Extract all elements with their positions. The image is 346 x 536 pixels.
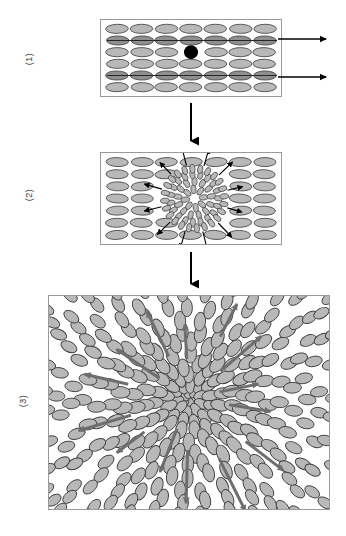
connector-2-3 xyxy=(183,252,201,294)
molecule-ellipse xyxy=(253,181,275,191)
molecule-ellipse xyxy=(48,315,61,331)
molecule-ellipse xyxy=(156,230,178,239)
molecule-ellipse xyxy=(220,193,229,199)
molecule-ellipse xyxy=(106,48,129,57)
molecule-ellipse xyxy=(48,301,56,317)
molecule-ellipse xyxy=(229,59,252,68)
molecule-ellipse xyxy=(328,471,330,487)
flow-arrow xyxy=(185,325,187,359)
molecule-ellipse xyxy=(228,230,250,240)
molecule-ellipse xyxy=(57,439,76,454)
molecule-ellipse xyxy=(131,181,154,191)
molecule-ellipse xyxy=(155,48,178,57)
molecule-ellipse xyxy=(160,198,169,204)
molecule-ellipse xyxy=(320,295,330,307)
molecule-ellipse xyxy=(229,24,252,33)
molecule-ellipse xyxy=(88,312,108,331)
stage-3-canvas xyxy=(49,296,329,509)
molecule-ellipse xyxy=(205,83,228,92)
molecule-ellipse xyxy=(253,206,275,216)
molecule-ellipse xyxy=(106,193,129,203)
molecule-ellipse xyxy=(254,218,276,227)
molecule-ellipse xyxy=(229,193,252,203)
molecule-ellipse xyxy=(229,218,252,228)
molecule-ellipse xyxy=(131,157,153,166)
molecule-ellipse xyxy=(284,439,304,456)
molecule-ellipse xyxy=(106,59,129,69)
molecule-ellipse xyxy=(254,158,276,167)
molecule-ellipse xyxy=(287,503,306,510)
molecule-ellipse xyxy=(131,59,154,68)
molecule-ellipse xyxy=(85,497,103,510)
molecule-ellipse xyxy=(155,157,177,167)
molecule-ellipse xyxy=(253,59,276,68)
molecule-ellipse xyxy=(106,82,129,91)
molecule-ellipse xyxy=(201,222,209,232)
molecule-ellipse xyxy=(177,220,186,230)
molecule-ellipse xyxy=(204,24,227,33)
molecule-ellipse xyxy=(131,47,154,57)
molecule-ellipse xyxy=(106,206,128,216)
molecule-ellipse xyxy=(130,24,153,33)
molecule-ellipse xyxy=(205,48,228,57)
molecule-ellipse xyxy=(194,224,200,233)
molecule-ellipse xyxy=(229,82,252,91)
molecule-ellipse xyxy=(229,48,252,57)
molecule-ellipse xyxy=(284,404,303,417)
stage-1-canvas xyxy=(101,20,281,96)
molecule-ellipse xyxy=(268,295,287,308)
nucleation-site xyxy=(184,45,198,59)
molecule-ellipse xyxy=(161,190,171,197)
molecule-ellipse xyxy=(179,83,202,92)
molecule-ellipse xyxy=(254,24,277,33)
molecule-ellipse xyxy=(205,157,228,167)
stage-2-panel xyxy=(100,152,282,245)
molecule-ellipse xyxy=(48,337,49,353)
connector-1-2 xyxy=(183,103,201,149)
molecule-ellipse xyxy=(310,386,328,398)
molecule-ellipse xyxy=(105,218,127,227)
molecule-ellipse xyxy=(229,169,252,179)
molecule-ellipse xyxy=(62,398,80,409)
stage-label-2: (2) xyxy=(24,183,34,207)
molecule-ellipse xyxy=(106,169,128,178)
molecule-ellipse xyxy=(229,206,252,216)
molecule-ellipse xyxy=(107,182,129,191)
molecule-ellipse xyxy=(48,434,59,448)
molecule-ellipse xyxy=(131,83,154,92)
molecule-ellipse xyxy=(204,230,227,240)
stage-3-panel xyxy=(48,295,330,510)
molecule-ellipse xyxy=(254,82,277,91)
molecule-ellipse xyxy=(49,327,68,343)
stage-2-canvas xyxy=(101,153,281,244)
molecule-ellipse xyxy=(59,338,79,355)
molecule-ellipse xyxy=(155,24,178,34)
molecule-ellipse xyxy=(163,181,173,190)
stage-label-3: (3) xyxy=(18,389,28,413)
molecule-ellipse xyxy=(296,416,316,430)
molecule-ellipse xyxy=(106,24,129,34)
molecule-ellipse xyxy=(253,47,276,56)
molecule-ellipse xyxy=(323,458,330,473)
molecule-ellipse xyxy=(130,218,152,228)
molecule-ellipse xyxy=(105,230,128,240)
molecule-ellipse xyxy=(253,169,275,179)
molecule-ellipse xyxy=(131,206,153,216)
molecule-ellipse xyxy=(179,59,202,68)
stage-label-1: (1) xyxy=(24,47,34,71)
molecule-ellipse xyxy=(61,295,80,305)
stage-1-exit-arrows xyxy=(278,19,342,99)
molecule-ellipse xyxy=(218,185,228,193)
molecule-ellipse xyxy=(254,230,276,239)
stage-1-panel xyxy=(100,19,282,97)
molecule-ellipse xyxy=(106,157,129,167)
molecule-ellipse xyxy=(230,181,253,191)
molecule-ellipse xyxy=(180,24,203,33)
molecule-ellipse xyxy=(243,487,262,507)
molecule-ellipse xyxy=(253,194,275,203)
flow-arrow xyxy=(186,450,188,503)
molecule-ellipse xyxy=(204,59,227,68)
molecule-ellipse xyxy=(131,170,153,179)
molecule-ellipse xyxy=(131,194,153,203)
molecule-ellipse xyxy=(69,352,89,368)
